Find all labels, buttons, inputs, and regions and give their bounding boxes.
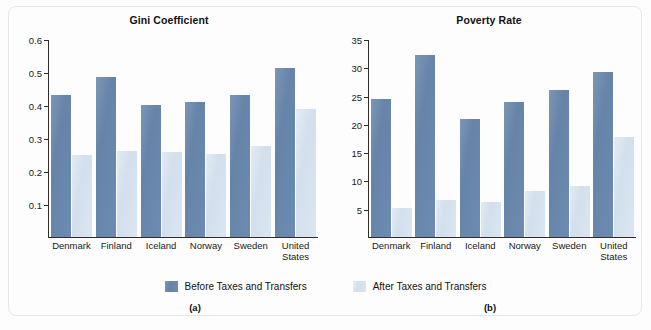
x-category-label: Denmark — [369, 240, 414, 262]
bar-after — [296, 109, 316, 237]
bar-group — [458, 40, 503, 237]
bar-after — [206, 154, 226, 237]
subcaption-a: (a) — [0, 302, 390, 313]
bar-group — [228, 40, 273, 237]
x-category-label: United States — [592, 240, 637, 262]
bar-after — [392, 208, 412, 237]
bar-before — [504, 102, 524, 237]
bar-after — [251, 146, 271, 237]
legend-swatch-after-icon — [353, 281, 366, 292]
bar-group — [139, 40, 184, 237]
bar-before — [230, 95, 250, 237]
bar-after — [481, 202, 501, 237]
legend-item-after: After Taxes and Transfers — [353, 281, 487, 292]
y-tick-label: 35 — [351, 35, 362, 46]
bar-group — [369, 40, 414, 237]
x-axis-a — [48, 237, 318, 238]
bar-group — [273, 40, 318, 237]
bar-after — [436, 200, 456, 237]
x-category-label: Sweden — [547, 240, 592, 262]
bar-after — [117, 151, 137, 237]
y-tick-label: 20 — [351, 119, 362, 130]
y-tick-mark — [364, 210, 368, 211]
bar-before — [96, 77, 116, 237]
y-tick-mark — [364, 40, 368, 41]
y-tick-mark — [44, 205, 48, 206]
legend-label-before: Before Taxes and Transfers — [185, 281, 307, 292]
y-tick-mark — [44, 73, 48, 74]
figure-container: Gini Coefficient 0.10.20.30.40.50.6 Denm… — [0, 0, 651, 330]
bar-before — [549, 90, 569, 237]
y-tick-label: 0.3 — [29, 134, 42, 145]
plot-area-b: 5101520253035 — [368, 40, 636, 238]
y-tick-mark — [364, 68, 368, 69]
bar-group — [592, 40, 637, 237]
bar-before — [460, 119, 480, 237]
y-tick-label: 0.5 — [29, 68, 42, 79]
y-tick-mark — [364, 97, 368, 98]
y-tick-mark — [44, 172, 48, 173]
bar-group — [49, 40, 94, 237]
bar-group-container-b — [369, 40, 636, 237]
bar-group — [94, 40, 139, 237]
chart-panel-b: Poverty Rate 5101520253035 DenmarkFinlan… — [336, 8, 642, 268]
bar-before — [415, 55, 435, 237]
y-tick-mark — [364, 181, 368, 182]
chart-legend: Before Taxes and Transfers After Taxes a… — [0, 281, 651, 292]
legend-label-after: After Taxes and Transfers — [373, 281, 487, 292]
chart-title-b: Poverty Rate — [336, 14, 642, 26]
y-tick-label: 25 — [351, 91, 362, 102]
y-tick-label: 10 — [351, 176, 362, 187]
x-category-label: Finland — [414, 240, 459, 262]
chart-title-a: Gini Coefficient — [14, 14, 324, 26]
legend-item-before: Before Taxes and Transfers — [165, 281, 307, 292]
y-tick-label: 0.2 — [29, 167, 42, 178]
y-tick-mark — [44, 40, 48, 41]
x-axis-b — [368, 237, 636, 238]
bar-before — [371, 99, 391, 237]
y-tick-label: 15 — [351, 148, 362, 159]
bar-before — [51, 95, 71, 237]
bar-group — [547, 40, 592, 237]
x-category-label: Finland — [94, 240, 139, 262]
chart-panel-a: Gini Coefficient 0.10.20.30.40.50.6 Denm… — [14, 8, 324, 268]
bar-before — [185, 102, 205, 237]
x-category-label: United States — [273, 240, 318, 262]
bar-before — [141, 105, 161, 237]
bar-after — [162, 152, 182, 237]
y-tick-label: 0.4 — [29, 101, 42, 112]
x-category-label: Iceland — [458, 240, 503, 262]
y-tick-label: 0.1 — [29, 200, 42, 211]
bar-group — [503, 40, 548, 237]
x-category-labels-b: DenmarkFinlandIcelandNorwaySwedenUnited … — [369, 240, 636, 262]
x-category-label: Denmark — [49, 240, 94, 262]
subcaption-b: (b) — [340, 302, 640, 313]
bar-after — [525, 191, 545, 237]
bar-group — [414, 40, 459, 237]
x-category-label: Norway — [503, 240, 548, 262]
y-tick-label: 30 — [351, 63, 362, 74]
x-category-label: Sweden — [228, 240, 273, 262]
legend-swatch-before-icon — [165, 281, 178, 292]
bar-after — [614, 137, 634, 237]
y-tick-mark — [44, 106, 48, 107]
x-category-labels-a: DenmarkFinlandIcelandNorwaySwedenUnited … — [49, 240, 318, 262]
y-tick-mark — [364, 125, 368, 126]
bar-group — [183, 40, 228, 237]
bar-after — [570, 186, 590, 237]
bar-before — [593, 72, 613, 237]
bar-before — [275, 68, 295, 237]
y-tick-mark — [364, 153, 368, 154]
x-category-label: Iceland — [139, 240, 184, 262]
y-tick-mark — [44, 139, 48, 140]
y-tick-label: 5 — [357, 204, 362, 215]
bar-after — [72, 155, 92, 237]
plot-area-a: 0.10.20.30.40.50.6 — [48, 40, 318, 238]
bar-group-container-a — [49, 40, 318, 237]
x-category-label: Norway — [183, 240, 228, 262]
y-tick-label: 0.6 — [29, 35, 42, 46]
